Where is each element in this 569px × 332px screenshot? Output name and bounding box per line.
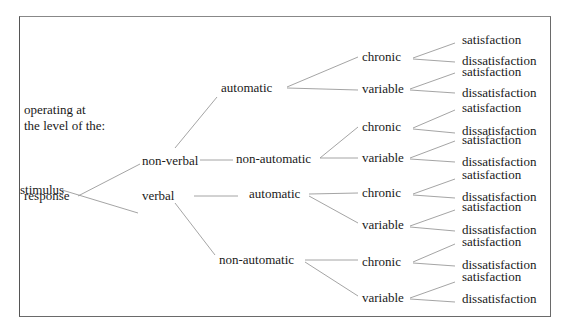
outcome-satisfaction-4: satisfaction	[462, 133, 521, 147]
outcome-satisfaction-2: satisfaction	[462, 65, 521, 79]
outcome-dissatisfaction-8: dissatisfaction	[462, 292, 536, 306]
node-v-automatic: automatic	[249, 187, 300, 201]
outcome-satisfaction-6: satisfaction	[462, 200, 521, 214]
node-variable-4: variable	[362, 291, 404, 305]
node-variable-2: variable	[362, 151, 404, 165]
outcome-satisfaction-8: satisfaction	[462, 270, 521, 284]
node-nv-non-automatic: non-automatic	[236, 152, 311, 166]
outcome-satisfaction-3: satisfaction	[462, 101, 521, 115]
node-chronic-4: chronic	[362, 255, 401, 269]
caption-line-2: the level of the:	[24, 118, 105, 134]
node-variable-1: variable	[362, 82, 404, 96]
caption-line-1: operating at	[24, 102, 105, 118]
node-v-non-automatic: non-automatic	[219, 253, 294, 267]
node-nv-automatic: automatic	[221, 81, 272, 95]
outcome-satisfaction-7: satisfaction	[462, 235, 521, 249]
node-variable-3: variable	[362, 218, 404, 232]
node-chronic-3: chronic	[362, 186, 401, 200]
diagram-caption: operating at the level of the:	[24, 102, 105, 134]
node-response: response	[24, 189, 70, 203]
outcome-satisfaction-1: satisfaction	[462, 33, 521, 47]
node-non-verbal: non-verbal	[142, 154, 198, 168]
outcome-dissatisfaction-2: dissatisfaction	[462, 86, 536, 100]
node-chronic-2: chronic	[362, 120, 401, 134]
node-chronic-1: chronic	[362, 50, 401, 64]
outcome-satisfaction-5: satisfaction	[462, 168, 521, 182]
node-verbal: verbal	[142, 189, 174, 203]
